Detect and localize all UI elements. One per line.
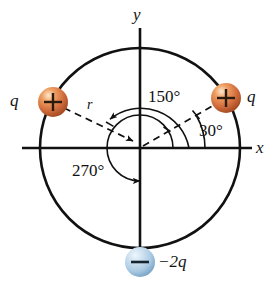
arc-150 <box>110 108 189 148</box>
origin-tick-150 <box>106 122 114 126</box>
angle-30-label: 30° <box>199 122 223 139</box>
radius-line-150 <box>64 108 133 141</box>
angle-150-label: 150° <box>148 88 180 105</box>
physics-charge-diagram: y x q q −2q r 150° 30° 270° <box>0 0 277 306</box>
diagram-canvas <box>0 0 277 306</box>
angle-270-label: 270° <box>72 162 104 179</box>
radius-label: r <box>87 98 92 112</box>
charge-left-positive-label: q <box>10 92 19 109</box>
y-axis-label: y <box>133 6 141 23</box>
charge-bottom-negative-label: −2q <box>158 253 186 270</box>
x-axis-label: x <box>256 139 264 156</box>
charge-right-positive-label: q <box>247 88 256 105</box>
